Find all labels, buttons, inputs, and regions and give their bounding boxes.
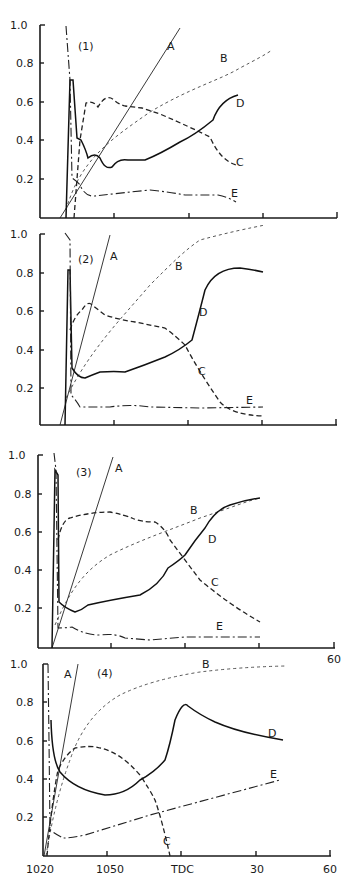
curve-A — [44, 664, 78, 856]
curve-A — [52, 457, 113, 648]
y-tick-label: 1.0 — [10, 658, 28, 671]
panel-4: 1.0 0.8 0.6 0.4 0.2 1020 1050 TDC 30 60 … — [10, 658, 337, 876]
panel-3: 1.0 0.8 0.6 0.4 0.2 60 (3) A B C D E — [8, 449, 341, 666]
curve-E — [65, 233, 263, 408]
y-tick-label: 0.2 — [16, 811, 34, 824]
curve-label-B: B — [220, 52, 228, 65]
curve-D — [66, 80, 238, 218]
curve-label-C: C — [163, 835, 171, 848]
curve-label-E: E — [246, 394, 253, 407]
y-tick-label: 0.8 — [16, 696, 34, 709]
panel-label: (4) — [97, 667, 113, 680]
panel-label: (2) — [78, 253, 94, 266]
y-tick-label: 0.4 — [14, 564, 32, 577]
y-tick-label: 1.0 — [10, 19, 28, 32]
y-tick-label: 0.6 — [16, 735, 34, 748]
curve-A — [60, 28, 180, 218]
curve-label-D: D — [268, 727, 276, 740]
curve-D — [51, 705, 283, 795]
y-tick-label: 0.2 — [16, 173, 34, 186]
curve-E — [54, 453, 260, 640]
curve-label-C: C — [211, 576, 219, 589]
curve-label-A: A — [64, 668, 72, 681]
y-tick-label: 1.0 — [10, 228, 28, 241]
curve-label-E: E — [231, 187, 238, 200]
y-tick-label: 0.4 — [16, 134, 34, 147]
x-tick-label-1050: 1050 — [96, 863, 124, 876]
x-tick-label-60: 60 — [327, 653, 341, 666]
curve-label-D: D — [199, 306, 207, 319]
curve-C — [47, 747, 170, 857]
y-tick-label: 0.8 — [16, 267, 34, 280]
curve-label-D: D — [236, 97, 244, 110]
curve-label-E: E — [270, 768, 277, 781]
curve-label-A: A — [110, 250, 118, 263]
curve-B — [46, 666, 285, 856]
y-tick-label: 0.8 — [16, 57, 34, 70]
y-tick-label: 0.6 — [16, 305, 34, 318]
x-tick-label-30: 30 — [250, 863, 264, 876]
x-tick-label-tdc: TDC — [170, 863, 194, 876]
curve-C — [70, 303, 263, 416]
y-tick-label: 0.6 — [16, 96, 34, 109]
y-tick-label: 0.2 — [14, 602, 32, 615]
curve-label-B: B — [175, 260, 183, 273]
curve-E — [48, 664, 280, 838]
y-tick-label: 1.0 — [8, 449, 26, 462]
y-tick-label: 0.2 — [16, 382, 34, 395]
figure-canvas: 1.0 0.8 0.6 0.4 0.2 (1) A B C D E 1.0 0.… — [0, 0, 358, 882]
x-tick-label-1020: 1020 — [26, 863, 54, 876]
y-tick-label: 0.6 — [14, 526, 32, 539]
curve-B — [66, 50, 272, 210]
curve-label-B: B — [190, 504, 198, 517]
curve-label-D: D — [208, 533, 216, 546]
panel-1: 1.0 0.8 0.6 0.4 0.2 (1) A B C D E — [10, 19, 337, 218]
y-tick-label: 0.8 — [14, 488, 32, 501]
y-tick-label: 0.4 — [16, 773, 34, 786]
curve-label-B: B — [202, 658, 210, 671]
curve-label-E: E — [216, 620, 223, 633]
panel-label: (1) — [78, 40, 94, 53]
curve-label-A: A — [115, 462, 123, 475]
curve-D — [52, 470, 260, 648]
x-tick-label-60: 60 — [323, 863, 337, 876]
y-tick-label: 0.4 — [16, 344, 34, 357]
curve-B — [66, 225, 265, 398]
panel-label: (3) — [76, 466, 92, 479]
curve-label-C: C — [198, 365, 206, 378]
curve-label-A: A — [167, 40, 175, 53]
curve-label-C: C — [236, 156, 244, 169]
panel-2: 1.0 0.8 0.6 0.4 0.2 (2) A B C D E — [10, 225, 337, 425]
